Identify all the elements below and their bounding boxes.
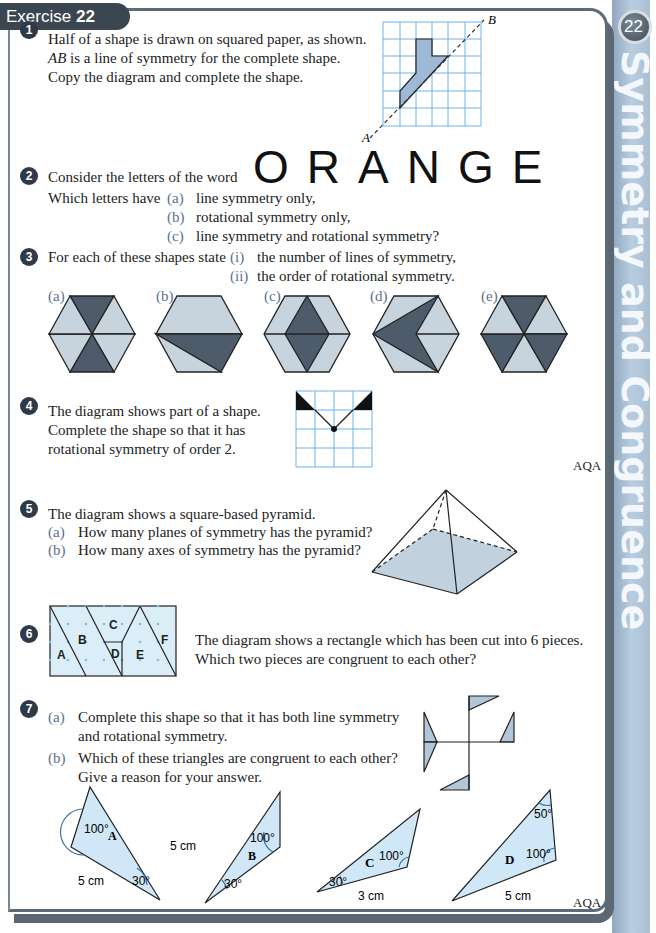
hexagon-a [49,296,135,372]
q7-source-aqa: AQA [573,895,601,911]
chapter-title: Symmetry and Congruence [616,50,654,630]
tri-d-angle-50: 50° [534,807,552,821]
q7-part-a-line-2: and rotational symmetry. [78,727,227,746]
q2-ask: Which letters have [48,189,160,208]
q2-part-a-label: (a) [167,189,184,208]
question-number-4: 4 [20,397,38,415]
tri-a-side: 5 cm [78,874,104,888]
q5-part-a-text: How many planes of symmetry has the pyra… [78,523,373,542]
tri-d-label: D [505,852,514,867]
tri-c-angle-100: 100° [379,849,404,863]
piece-a: A [57,648,66,662]
tri-c-label: C [365,855,374,870]
question-number-1: 1 [20,21,38,39]
tri-a-angle-100: 100° [84,822,109,836]
tri-c-angle-30: 30° [329,875,347,889]
q1-line-1: Half of a shape is drawn on squared pape… [48,30,366,49]
word-orange: ORANGE [253,144,560,190]
q6-line-2: Which two pieces are congruent to each o… [195,650,476,669]
q3-intro: For each of these shapes state [48,248,226,267]
tri-b-angle-100: 100° [250,831,275,845]
triangle-c: 100° C 30° 3 cm [315,805,425,905]
q6-line-1: The diagram shows a rectangle which has … [195,631,583,650]
triangle-b: 100° B 30° 5 cm [165,790,285,905]
q3-part-ii-text: the order of rotational symmetry. [257,267,455,286]
q2-part-b-label: (b) [167,208,185,227]
q3-part-ii-label: (ii) [230,267,248,286]
label-b: B [488,12,496,27]
rectangle-pieces-diagram: A B C D E F [50,606,178,678]
tri-c-side: 3 cm [358,889,384,903]
question-number-7: 7 [20,700,38,718]
cross-shape-diagram [420,690,520,800]
q1-grid-diagram: A B [380,20,510,140]
q2-part-a-text: line symmetry only, [196,189,315,208]
q4-line-2: Complete the shape so that it has [48,421,245,440]
q2-part-c-text: line symmetry and rotational symmetry? [196,227,439,246]
hexagon-b [156,296,242,372]
q5-part-b-text: How many axes of symmetry has the pyrami… [78,541,361,560]
q2-intro: Consider the letters of the word [48,168,238,187]
tri-a-label: A [108,829,117,843]
question-number-3: 3 [20,248,38,266]
q5-intro: The diagram shows a square-based pyramid… [48,505,315,524]
triangle-a: 100° A 30° 5 cm [70,785,180,905]
tri-b-angle-30: 30° [224,877,242,891]
tri-d-side: 5 cm [505,889,531,903]
q5-part-a-label: (a) [48,523,65,542]
q4-line-3: rotational symmetry of order 2. [48,440,236,459]
chapter-number-badge: 22 [618,10,652,44]
question-number-6: 6 [20,625,38,643]
hexagon-d [373,296,459,372]
q3-part-i-text: the number of lines of symmetry, [257,248,456,267]
q4-source-aqa: AQA [573,458,601,474]
square-pyramid-diagram [370,485,520,595]
q7-part-a-line-1: Complete this shape so that it has both … [78,708,399,727]
exercise-word: Exercise [6,7,71,26]
piece-d: D [111,647,120,661]
hexagon-c [264,296,350,372]
piece-e: E [136,648,144,662]
q1-line-2: AB is a line of symmetry for the complet… [48,49,340,68]
q4-line-1: The diagram shows part of a shape. [48,402,261,421]
q2-part-b-text: rotational symmetry only, [196,208,350,227]
tri-b-side: 5 cm [170,839,196,853]
tri-a-angle-30: 30° [132,874,150,888]
q7-part-b-line-1: Which of these triangles are congruent t… [78,749,398,768]
piece-c: C [109,618,118,632]
chapter-sidebar: 22 Symmetry and Congruence [612,0,650,933]
q3-part-i-label: (i) [230,248,244,267]
q7-part-a-label: (a) [48,708,65,727]
q1-line-2-text: is a line of symmetry for the complete s… [70,50,340,66]
exercise-number: 22 [76,7,95,26]
exercise-tab: Exercise 22 [0,3,130,30]
piece-b: B [78,633,87,647]
q1-line-3: Copy the diagram and complete the shape. [48,68,303,87]
q2-part-c-label: (c) [167,227,184,246]
q7-part-b-label: (b) [48,749,66,768]
tri-d-angle-100: 100° [526,847,551,861]
hexagon-e [481,296,567,372]
triangle-d: 50° 100° D 5 cm [450,788,560,903]
tri-b-label: B [248,849,256,863]
question-number-5: 5 [20,500,38,518]
piece-f: F [161,633,168,647]
q4-grid-diagram [296,391,372,467]
question-number-2: 2 [20,167,38,185]
ab-label: AB [48,50,66,66]
q5-part-b-label: (b) [48,541,66,560]
